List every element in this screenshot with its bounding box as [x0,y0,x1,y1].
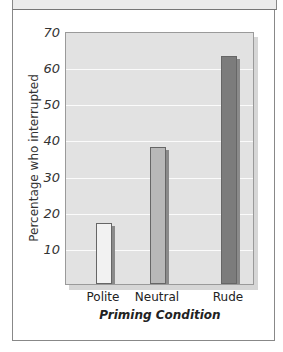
bar-polite [96,223,112,284]
plot-area [65,32,254,285]
x-axis-label: Priming Condition [99,308,220,322]
y-tick-label: 70 [30,25,60,40]
y-tick-label: 10 [30,241,60,256]
x-category-label: Rude [213,290,243,304]
bar-neutral [150,147,166,284]
bar-rude [221,56,237,284]
x-category-label: Neutral [135,290,179,304]
y-axis-label: Percentage who interrupted [27,74,41,242]
header-strip [12,0,277,10]
x-category-label: Polite [87,290,120,304]
